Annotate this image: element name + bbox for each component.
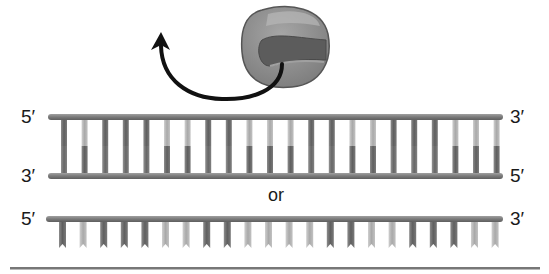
single-strand-backbone (46, 216, 503, 222)
top-strand-backbone (48, 114, 503, 120)
label-3prime-single-right: 3′ (510, 209, 524, 228)
separator-or: or (268, 186, 284, 204)
bottom-strand-backbone (48, 173, 503, 179)
translation-diagram (0, 0, 549, 274)
label-5prime-top-left: 5′ (21, 107, 35, 126)
label-5prime-bottom-right: 5′ (510, 166, 524, 185)
ribosome-icon (242, 7, 330, 88)
label-3prime-top-right: 3′ (510, 107, 524, 126)
label-5prime-single-left: 5′ (21, 209, 35, 228)
label-3prime-bottom-left: 3′ (21, 166, 35, 185)
double-strand-base-pairs (61, 118, 500, 175)
single-strand-bases (59, 220, 499, 248)
bottom-rule (10, 267, 540, 270)
